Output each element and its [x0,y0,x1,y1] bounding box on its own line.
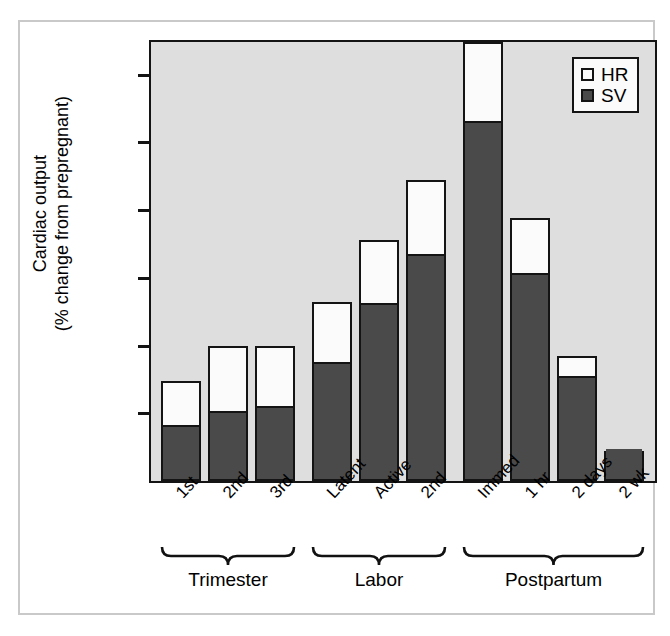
bar [255,346,295,481]
y-axis-title-line-2: (% change from prepregnant) [52,59,74,369]
y-tick-mark [138,345,150,348]
bar [406,180,446,481]
y-axis: Cardiac output (% change from prepregnan… [20,22,155,636]
bar-segment-hr [163,383,199,425]
legend-swatch-sv [581,89,594,102]
legend: HR SV [572,57,639,113]
bar-segment-sv [408,254,444,479]
y-axis-title-line-1: Cardiac output [30,59,52,369]
group-label: Labor [355,569,404,591]
group-brace [313,547,445,565]
bar-segment-hr [559,358,595,376]
y-tick-mark [138,209,150,212]
legend-item-sv: SV [581,85,628,106]
bar-segment-sv [257,406,293,479]
y-tick-mark [138,412,150,415]
bar-segment-sv [465,121,501,479]
y-axis-title: Cardiac output (% change from prepregnan… [30,59,73,369]
bar-segment-sv [210,411,246,479]
bar-segment-sv [512,273,548,479]
bar [312,302,352,481]
y-tick-mark [138,141,150,144]
bar-segment-sv [361,303,397,479]
bar-segment-hr [314,304,350,362]
bar-segment-hr [465,44,501,121]
legend-item-hr: HR [581,64,628,85]
group-label: Trimester [188,569,268,591]
legend-label-sv: SV [601,86,626,105]
bar-segment-hr [210,348,246,412]
y-tick-mark [138,277,150,280]
figure: Cardiac output (% change from prepregnan… [0,0,670,636]
bar [161,381,201,481]
bar [359,240,399,481]
bar-segment-hr [257,348,293,406]
group-brace [464,547,643,565]
bar-segment-sv [559,376,595,479]
y-tick-mark [138,74,150,77]
bar-segment-sv [163,425,199,479]
legend-label-hr: HR [601,65,628,84]
bar [510,218,550,481]
legend-swatch-hr [581,68,594,81]
bar-segment-hr [512,220,548,273]
bar-segment-hr [408,182,444,254]
bar-segment-hr [361,242,397,303]
bar [463,42,503,481]
bar [208,346,248,481]
group-brace [162,547,294,565]
bar-segment-sv [314,362,350,479]
figure-frame: Cardiac output (% change from prepregnan… [18,20,655,615]
group-label: Postpartum [505,569,602,591]
